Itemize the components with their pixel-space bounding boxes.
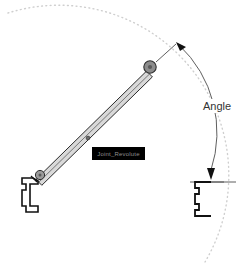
- arm-centre-rail: [39, 74, 150, 182]
- left-bracket-outline: [22, 178, 38, 212]
- upper-pivot-joint[interactable]: [144, 61, 156, 73]
- part-name-tooltip[interactable]: Joint_Revolute: [92, 147, 145, 160]
- lower-pivot-hub: [39, 174, 42, 177]
- left-fixed-bracket[interactable]: [22, 176, 38, 212]
- part-name-tooltip-label: Joint_Revolute: [97, 151, 140, 157]
- lower-pivot-joint[interactable]: [35, 170, 44, 179]
- mechanical-diagram: Angle: [0, 0, 250, 273]
- dotted-arc-path: [8, 5, 229, 262]
- angle-arrow-head-upper: [176, 42, 186, 51]
- angle-arrow-head-lower: [207, 168, 215, 180]
- linkage-arm[interactable]: [36, 71, 152, 185]
- right-fixed-bracket[interactable]: [195, 182, 236, 216]
- arm-midpoint-marker[interactable]: [86, 136, 90, 140]
- angle-label: Angle: [203, 100, 231, 112]
- angle-leader-upper: [156, 44, 176, 62]
- dotted-reference-arc: [8, 5, 229, 262]
- angle-label-group: Angle: [201, 99, 240, 113]
- upper-pivot-hub: [148, 65, 152, 69]
- right-bracket-outline: [195, 182, 211, 216]
- diagram-canvas: Angle: [0, 0, 250, 273]
